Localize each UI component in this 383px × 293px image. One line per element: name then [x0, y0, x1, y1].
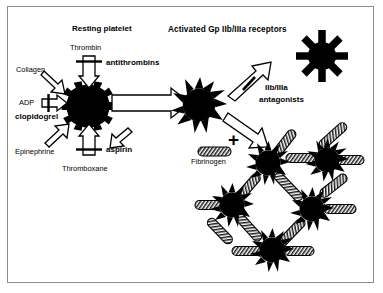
- resting-platelet-title: Resting platelet: [72, 25, 132, 34]
- plus-symbol: +: [228, 130, 239, 149]
- thrombin-label: Thrombin: [70, 44, 101, 52]
- collagen-arrow: [41, 71, 65, 94]
- epinephrine-arrow: [45, 124, 69, 147]
- gp-antagonists-label-line1: IIb/IIIa: [265, 84, 288, 93]
- diagram-artwork: [0, 0, 383, 293]
- gp-antagonists-label-line2: antagonists: [259, 96, 304, 105]
- epinephrine-label: Epinephrine: [15, 148, 54, 156]
- collagen-label: Collagen: [16, 66, 45, 74]
- thromboxane-label: Thromboxane: [62, 165, 108, 173]
- platelet-activation-diagram: Resting platelet Thrombin antithrombins …: [0, 0, 383, 293]
- fibrinogen-icon: [198, 147, 231, 156]
- platelet-aggregate: [195, 121, 364, 272]
- activation-arrow: [112, 88, 190, 118]
- activated-receptors-title: Activated Gp IIb/IIIa receptors: [168, 25, 287, 34]
- clopidogrel-label: clopidogrel: [15, 113, 58, 122]
- receptor-platelet-icon: [296, 30, 348, 82]
- fibrinogen-label: Fibrinogen: [191, 158, 226, 166]
- adp-label: ADP: [19, 99, 34, 107]
- aspirin-label: aspirin: [106, 146, 132, 155]
- antithrombins-label: antithrombins: [106, 59, 159, 68]
